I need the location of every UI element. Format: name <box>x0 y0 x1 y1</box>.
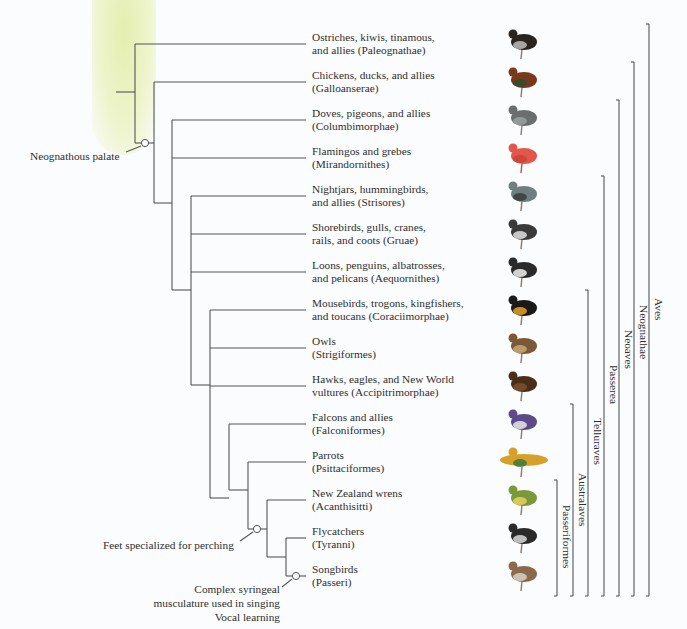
clade-label-telluraves: Telluraves <box>592 418 604 465</box>
clade-label-neognathae: Neognathae <box>638 305 650 359</box>
tip-label-line1: Mousebirds, trogons, kingfishers, <box>312 297 464 310</box>
annotation-neognathous-palate: Neognathous palate <box>30 150 119 163</box>
tip-label-line2: vultures (Accipitrimorphae) <box>312 386 454 399</box>
ostrich-icon <box>509 30 538 60</box>
tip-label-line1: Ostriches, kiwis, tinamous, <box>312 31 435 44</box>
tip-label-eagle: Hawks, eagles, and New Worldvultures (Ac… <box>312 373 454 399</box>
annotation-syrinx-line2: musculature used in singing <box>154 597 280 610</box>
pigeon-icon <box>509 106 538 136</box>
tip-label-line1: Doves, pigeons, and allies <box>312 107 430 120</box>
tip-label-line2: (Psittaciformes) <box>312 462 384 475</box>
owl-icon <box>509 334 538 364</box>
tip-label-hummingbird: Nightjars, hummingbirds,and allies (Stri… <box>312 183 428 209</box>
gull-icon <box>509 220 538 250</box>
flamingo-icon <box>509 144 538 174</box>
flycatcher-icon <box>509 524 538 554</box>
annotation-perching-feet: Feet specialized for perching <box>103 539 234 552</box>
tip-label-toucan: Mousebirds, trogons, kingfishers,and tou… <box>312 297 464 323</box>
tip-label-line1: Nightjars, hummingbirds, <box>312 183 428 196</box>
tip-label-line1: Flycatchers <box>312 525 364 538</box>
tip-label-penguin: Loons, penguins, albatrosses,and pelican… <box>312 259 445 285</box>
tip-label-line2: (Passeri) <box>312 576 358 589</box>
tip-label-line2: (Acanthisitti) <box>312 500 402 513</box>
neognathous-palate-marker <box>141 139 148 146</box>
rooster-icon <box>509 68 538 98</box>
tip-label-line1: Flamingos and grebes <box>312 145 411 158</box>
hummingbird-icon <box>509 182 538 212</box>
tip-label-line2: (Columbimorphae) <box>312 120 430 133</box>
tip-label-wren: New Zealand wrens(Acanthisitti) <box>312 487 402 513</box>
tip-label-falcon: Falcons and allies(Falconiformes) <box>312 411 393 437</box>
clade-label-passerea: Passerea <box>608 365 620 404</box>
tip-label-line2: (Falconiformes) <box>312 424 393 437</box>
neognathous-leader <box>126 146 141 152</box>
tip-label-line2: (Galloanserae) <box>312 82 435 95</box>
tip-label-line1: Hawks, eagles, and New World <box>312 373 454 386</box>
tip-label-parrot: Parrots(Psittaciformes) <box>312 449 384 475</box>
tip-label-ostrich: Ostriches, kiwis, tinamous,and allies (P… <box>312 31 435 57</box>
syrinx-marker <box>292 572 299 579</box>
tip-label-flamingo: Flamingos and grebes(Mirandornithes) <box>312 145 411 171</box>
clade-label-australaves: Australaves <box>577 473 589 526</box>
tip-label-sparrow: Songbirds(Passeri) <box>312 563 358 589</box>
tip-label-flycatcher: Flycatchers(Tyranni) <box>312 525 364 551</box>
falcon-icon <box>509 410 538 440</box>
annotation-vocal-learning: Vocal learning <box>215 611 280 624</box>
tip-label-line1: Chickens, ducks, and allies <box>312 69 435 82</box>
sparrow-icon <box>509 562 538 592</box>
tip-label-line1: New Zealand wrens <box>312 487 402 500</box>
clade-label-passeriformes: Passeriformes <box>561 505 573 568</box>
tip-label-line2: (Strigiformes) <box>312 348 376 361</box>
tip-label-line1: Falcons and allies <box>312 411 393 424</box>
tip-label-line2: and allies (Paleognathae) <box>312 44 435 57</box>
tip-label-line1: Owls <box>312 335 376 348</box>
tip-label-line2: (Tyranni) <box>312 538 364 551</box>
toucan-icon <box>509 296 538 326</box>
tip-label-gull: Shorebirds, gulls, cranes,rails, and coo… <box>312 221 426 247</box>
tip-label-line2: and toucans (Coraciimorphae) <box>312 310 464 323</box>
clade-label-aves: Aves <box>653 298 665 320</box>
tip-label-line1: Shorebirds, gulls, cranes, <box>312 221 426 234</box>
tip-label-line1: Parrots <box>312 449 384 462</box>
perching-leader <box>240 532 253 541</box>
tip-label-owl: Owls(Strigiformes) <box>312 335 376 361</box>
tip-label-line1: Songbirds <box>312 563 358 576</box>
clade-label-neoaves: Neoaves <box>623 330 635 369</box>
tip-label-line1: Loons, penguins, albatrosses, <box>312 259 445 272</box>
tip-label-line2: rails, and coots (Gruae) <box>312 234 426 247</box>
tip-label-pigeon: Doves, pigeons, and allies(Columbimorpha… <box>312 107 430 133</box>
tip-label-line2: (Mirandornithes) <box>312 158 411 171</box>
perching-feet-marker <box>253 525 260 532</box>
tip-label-rooster: Chickens, ducks, and allies(Galloanserae… <box>312 69 435 95</box>
syrinx-leader <box>282 579 292 587</box>
wren-icon <box>509 486 538 516</box>
annotation-syrinx-line1: Complex syringeal <box>194 583 280 596</box>
eagle-icon <box>509 372 538 402</box>
penguin-icon <box>509 258 538 288</box>
tip-label-line2: and allies (Strisores) <box>312 196 428 209</box>
parrot-icon <box>500 448 548 478</box>
tip-label-line2: and pelicans (Aequornithes) <box>312 272 445 285</box>
